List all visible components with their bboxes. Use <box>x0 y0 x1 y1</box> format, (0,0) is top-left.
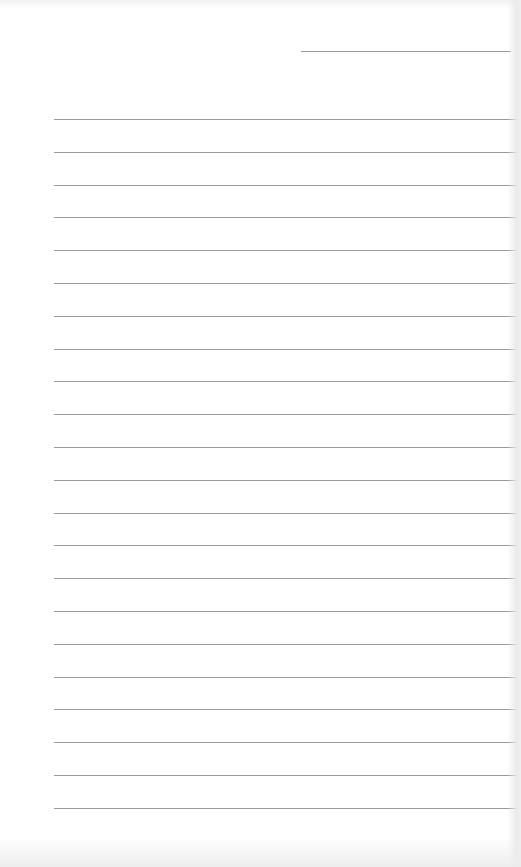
header-line <box>301 51 511 52</box>
ruled-line <box>54 316 516 317</box>
ruled-line <box>54 283 516 284</box>
right-edge-shadow <box>507 0 521 867</box>
ruled-line <box>54 152 516 153</box>
ruled-line <box>54 545 516 546</box>
ruled-line <box>54 611 516 612</box>
ruled-line <box>54 185 516 186</box>
ruled-line <box>54 578 516 579</box>
ruled-line <box>54 381 516 382</box>
lined-paper-sheet <box>0 0 521 867</box>
ruled-line <box>54 644 516 645</box>
top-edge-shadow <box>0 0 521 8</box>
ruled-line <box>54 250 516 251</box>
ruled-line <box>54 742 516 743</box>
ruled-line <box>54 217 516 218</box>
ruled-line <box>54 677 516 678</box>
ruled-line <box>54 775 516 776</box>
ruled-line <box>54 480 516 481</box>
ruled-line <box>54 709 516 710</box>
ruled-line <box>54 447 516 448</box>
ruled-line <box>54 414 516 415</box>
ruled-line <box>54 119 516 120</box>
ruled-line <box>54 808 516 809</box>
ruled-line <box>54 349 516 350</box>
bottom-edge-shadow <box>0 837 521 867</box>
ruled-line <box>54 513 516 514</box>
